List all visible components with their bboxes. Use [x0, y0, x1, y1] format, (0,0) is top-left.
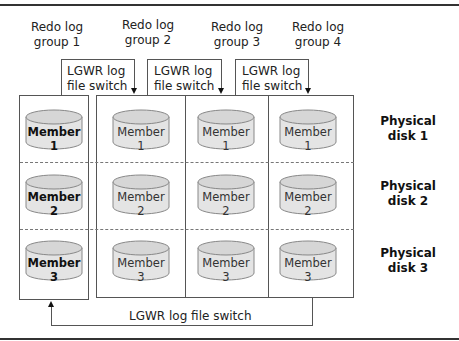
- bottom-switch-label: LGWR log file switch: [129, 309, 252, 324]
- disk-divider: [20, 229, 354, 230]
- disk-3-label: Physical disk 3: [368, 246, 448, 276]
- arrow-down-icon: [131, 88, 137, 94]
- group-1-member-3: Member 3: [25, 239, 83, 281]
- group-3-member-1: Member 1: [197, 108, 255, 150]
- group-3-label: Redo log group 3: [202, 20, 272, 50]
- group-3-member-3: Member 3: [197, 239, 255, 281]
- group-2-label: Redo log group 2: [113, 18, 183, 48]
- arrow-up-icon: [48, 301, 54, 307]
- column-divider: [185, 95, 186, 298]
- group-4-member-2: Member 2: [279, 173, 337, 215]
- switch-label-2: LGWR log file switch: [154, 64, 214, 94]
- group-1-member-1: Member 1: [25, 108, 83, 150]
- group-1-member-2: Member 2: [25, 173, 83, 215]
- disk-1-label: Physical disk 1: [368, 114, 448, 144]
- group-1-label: Redo log group 1: [22, 20, 92, 50]
- group-4-member-3: Member 3: [279, 239, 337, 281]
- disk-divider: [20, 162, 354, 163]
- group-2-member-3: Member 3: [112, 239, 170, 281]
- group-2-member-2: Member 2: [112, 173, 170, 215]
- group-4-member-1: Member 1: [279, 108, 337, 150]
- group-2-member-1: Member 1: [112, 108, 170, 150]
- switch-label-3: LGWR log file switch: [242, 64, 302, 94]
- switch-label-1: LGWR log file switch: [67, 64, 127, 94]
- column-divider: [268, 95, 269, 298]
- group-4-label: Redo log group 4: [283, 20, 353, 50]
- top-rule: [0, 4, 459, 6]
- arrow-down-icon: [305, 88, 311, 94]
- arrow-down-icon: [218, 88, 224, 94]
- disk-2-label: Physical disk 2: [368, 179, 448, 209]
- group-3-member-2: Member 2: [197, 173, 255, 215]
- bottom-rule: [0, 338, 459, 340]
